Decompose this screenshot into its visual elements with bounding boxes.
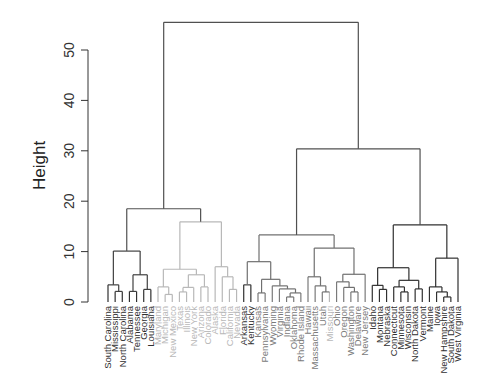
y-tick-label: 50 bbox=[61, 42, 77, 58]
dendrogram-chart: 01020304050 South CarolinaMississippiNor… bbox=[0, 0, 481, 389]
y-tick-label: 40 bbox=[61, 92, 77, 108]
y-tick-label: 0 bbox=[61, 298, 77, 306]
y-tick-label: 20 bbox=[61, 193, 77, 209]
y-tick-label: 30 bbox=[61, 143, 77, 159]
leaf-label: West Virginia bbox=[452, 305, 463, 361]
y-tick-label: 10 bbox=[61, 244, 77, 260]
leaf-labels: South CarolinaMississippiNorth CarolinaA… bbox=[102, 305, 463, 373]
dendrogram-tree bbox=[108, 22, 458, 302]
y-axis: 01020304050 bbox=[61, 42, 88, 306]
y-axis-title: Height bbox=[30, 141, 50, 190]
